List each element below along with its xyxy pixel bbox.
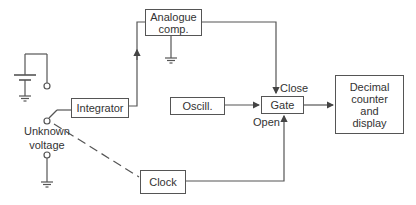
decimal-label-4: display — [352, 117, 386, 129]
decimal-counter-block: Decimal counter and display — [335, 75, 404, 134]
decimal-label-3: and — [360, 105, 378, 117]
switch-icon — [44, 110, 71, 124]
unknown-label-2: voltage — [20, 139, 74, 151]
integrator-label: Integrator — [76, 102, 123, 114]
integrator-block: Integrator — [71, 98, 129, 118]
clock-block: Clock — [140, 170, 186, 194]
decimal-label-2: counter — [351, 93, 388, 105]
gate-block: Gate — [261, 96, 304, 114]
open-label: Open — [253, 116, 280, 128]
gate-label: Gate — [271, 99, 295, 111]
analogue-comp-label-1: Analogue — [150, 11, 197, 23]
oscillator-label: Oscill. — [183, 100, 213, 112]
analogue-comparator-block: Analogue comp. — [145, 9, 202, 36]
clock-label: Clock — [149, 176, 177, 188]
ground-icon — [41, 182, 53, 187]
unknown-label-1: Unknown — [20, 125, 74, 137]
close-label: Close — [280, 82, 308, 94]
analogue-comp-label-2: comp. — [159, 23, 189, 35]
decimal-label-1: Decimal — [350, 81, 390, 93]
unknown-voltage-label: Unknown voltage — [20, 125, 74, 151]
battery-icon — [14, 54, 50, 96]
ground-icon — [165, 58, 177, 63]
ground-icon — [19, 96, 31, 101]
oscillator-block: Oscill. — [170, 97, 225, 115]
